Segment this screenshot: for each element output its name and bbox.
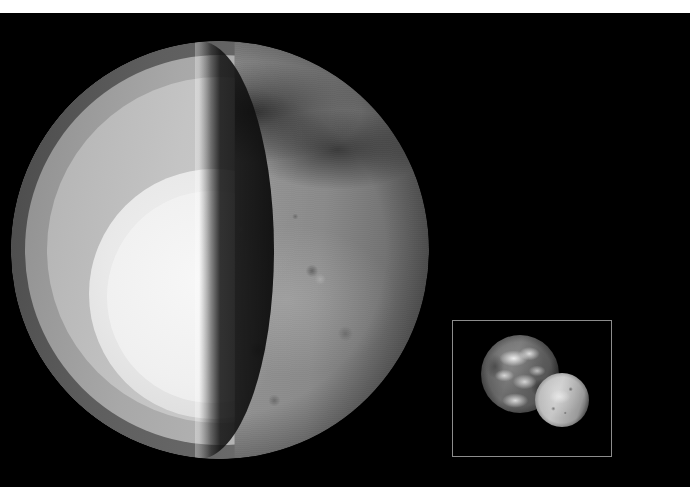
figure-canvas bbox=[0, 0, 690, 500]
letterbox-band-top bbox=[0, 0, 690, 13]
mars-planet-cutaway bbox=[11, 41, 429, 459]
space-background bbox=[0, 13, 690, 487]
cut-face-sheen bbox=[195, 41, 211, 459]
letterbox-band-bottom bbox=[0, 487, 690, 500]
mars-globe bbox=[535, 373, 589, 427]
size-comparison-inset bbox=[452, 320, 612, 457]
